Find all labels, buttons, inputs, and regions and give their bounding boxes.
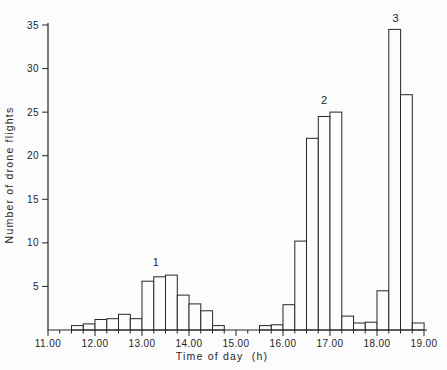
x-tick-label: 19.00: [410, 338, 437, 349]
y-tick-label: 10: [27, 237, 39, 248]
histogram-bar: [283, 305, 295, 330]
x-tick-label: 17.00: [316, 338, 343, 349]
histogram-bar: [307, 138, 319, 330]
y-axis-title: Number of drone flights: [3, 107, 15, 244]
x-tick-label: 15.00: [222, 338, 249, 349]
histogram-bar: [130, 319, 142, 330]
histogram-bar: [330, 112, 342, 330]
histogram-bar: [213, 326, 225, 330]
peak-annotation-1: 1: [153, 256, 160, 268]
x-tick-label: 16.00: [269, 338, 296, 349]
histogram-bar: [295, 241, 307, 330]
x-tick-label: 14.00: [175, 338, 202, 349]
x-axis-title: Time of day (h): [176, 350, 268, 362]
x-tick-label: 11.00: [35, 338, 61, 349]
histogram-bar: [271, 325, 283, 330]
histogram-bar: [154, 277, 166, 330]
y-tick-label: 30: [27, 63, 39, 74]
peak-annotation-3: 3: [392, 12, 399, 24]
y-tick-label: 20: [27, 150, 39, 161]
histogram-bar: [260, 326, 272, 330]
histogram-bar: [401, 95, 413, 330]
histogram-plot: 510152025303511.0012.0013.0014.0015.0016…: [0, 0, 447, 370]
plot-generated: 510152025303511.0012.0013.0014.0015.0016…: [27, 12, 437, 349]
histogram-bar: [189, 304, 201, 330]
y-tick-label: 5: [33, 281, 39, 292]
x-tick-label: 12.00: [81, 338, 108, 349]
histogram-bar: [166, 275, 178, 330]
histogram-bar: [95, 320, 107, 331]
x-tick-label: 13.00: [128, 338, 155, 349]
histogram-bar: [177, 295, 189, 330]
y-tick-label: 35: [27, 20, 39, 31]
histogram-bar: [318, 117, 330, 331]
peak-annotation-2: 2: [321, 94, 328, 106]
histogram-bar: [354, 323, 366, 330]
histogram-bar: [377, 291, 389, 330]
histogram-bar: [119, 314, 131, 330]
axis-lines: [48, 23, 427, 330]
histogram-bar: [83, 324, 95, 330]
histogram-bar: [365, 322, 377, 330]
histogram-bar: [342, 316, 354, 330]
x-tick-label: 18.00: [363, 338, 390, 349]
histogram-bar: [389, 29, 401, 330]
histogram-bar: [201, 311, 213, 330]
histogram-bar: [142, 281, 154, 330]
y-tick-label: 15: [27, 194, 39, 205]
chart-container: 510152025303511.0012.0013.0014.0015.0016…: [0, 0, 447, 370]
histogram-bar: [107, 319, 119, 330]
histogram-bar: [412, 323, 424, 330]
y-tick-label: 25: [27, 107, 39, 118]
histogram-bar: [72, 326, 84, 330]
